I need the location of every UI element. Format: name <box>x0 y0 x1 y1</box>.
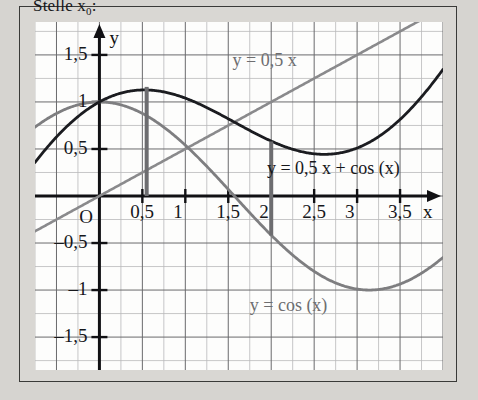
x-tick-label: 1,5 <box>216 202 240 221</box>
exercise-heading: Stelle x0: <box>33 0 97 17</box>
graph-paper: 1,510,5–0,5–1–1,50,511,522,533,5yxOy = 0… <box>35 22 443 370</box>
x-tick-label: 2,5 <box>302 202 326 221</box>
curve-label-line-half-x: y = 0,5 x <box>233 51 297 69</box>
y-tick-label: 1 <box>78 91 88 110</box>
origin-label: O <box>79 207 93 226</box>
heading-suffix: : <box>92 0 97 15</box>
y-axis-name: y <box>109 28 119 47</box>
y-tick-label: 1,5 <box>64 44 88 63</box>
heading-text: Stelle x <box>33 0 86 15</box>
scanned-page: Stelle x0: 1,510,5–0,5–1–1,50,511,522,53… <box>0 0 478 400</box>
x-tick-label: 3,5 <box>388 202 412 221</box>
y-tick-label: –1 <box>68 279 87 298</box>
x-tick-label: 0,5 <box>130 202 154 221</box>
x-tick-label: 3 <box>345 202 355 221</box>
coordinate-plot <box>35 22 443 370</box>
x-axis-name: x <box>423 202 433 221</box>
y-tick-label: –0,5 <box>54 232 87 251</box>
curve-label-cos: y = cos (x) <box>250 296 328 314</box>
y-tick-label: 0,5 <box>64 138 88 157</box>
x-tick-label: 2 <box>259 202 269 221</box>
y-tick-label: –1,5 <box>54 326 87 345</box>
curve-label-sum: y = 0,5 x + cos (x) <box>267 159 400 177</box>
y-axis-arrow <box>93 24 105 38</box>
x-tick-label: 1 <box>173 202 183 221</box>
